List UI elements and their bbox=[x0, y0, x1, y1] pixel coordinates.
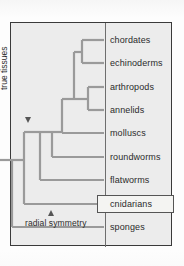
taxon-label-echinoderms[interactable]: echinoderms bbox=[110, 58, 163, 68]
taxon-label-cnidarians[interactable]: cnidarians bbox=[110, 199, 152, 209]
annotation-radial-symmetry: radial symmetry bbox=[25, 218, 86, 228]
taxon-label-roundworms[interactable]: roundworms bbox=[110, 152, 161, 162]
annotation-true-tissues: true tissues bbox=[0, 76, 59, 90]
taxon-label-chordates[interactable]: chordates bbox=[110, 35, 150, 45]
taxon-label-flatworms[interactable]: flatworms bbox=[110, 175, 149, 185]
taxon-label-molluscs[interactable]: molluscs bbox=[110, 128, 146, 138]
taxon-label-sponges[interactable]: sponges bbox=[110, 222, 145, 232]
taxon-label-annelids[interactable]: annelids bbox=[110, 105, 144, 115]
taxon-label-arthropods[interactable]: arthropods bbox=[110, 82, 154, 92]
up-triangle-marker-icon bbox=[48, 210, 54, 216]
cladogram-figure: chordates echinoderms arthropods annelid… bbox=[0, 0, 184, 266]
down-triangle-marker-icon bbox=[25, 117, 31, 123]
